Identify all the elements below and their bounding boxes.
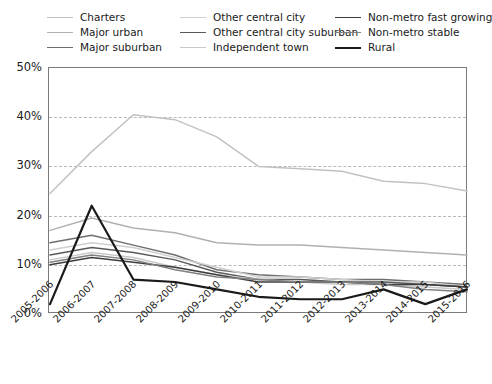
legend-item-label: Major urban xyxy=(80,27,143,38)
y-axis-tick-label: 40% xyxy=(16,109,42,123)
x-axis: 2005-20062006-20072007-20082008-20092009… xyxy=(0,313,476,383)
series-line xyxy=(50,115,467,194)
legend-item-label: Major suburban xyxy=(80,42,162,53)
legend-item-label: Charters xyxy=(80,12,125,23)
legend-item[interactable]: Charters xyxy=(47,10,162,25)
y-axis-tick-label: 20% xyxy=(16,208,42,222)
plot-area xyxy=(48,67,467,313)
legend-item[interactable]: Major suburban xyxy=(47,40,162,55)
legend-swatch-line-icon xyxy=(47,32,73,33)
legend-item-label: Non-metro fast growing xyxy=(368,12,492,23)
legend-swatch-line-icon xyxy=(335,47,361,49)
legend-swatch-line-icon xyxy=(180,17,206,18)
y-axis-tick-label: 50% xyxy=(16,60,42,74)
legend-swatch-line-icon xyxy=(47,17,73,18)
legend-column-2: Other central cityOther central city sub… xyxy=(180,10,358,55)
legend-item[interactable]: Non-metro fast growing xyxy=(335,10,492,25)
legend-item[interactable]: Other central city xyxy=(180,10,358,25)
legend-item-label: Independent town xyxy=(213,42,309,53)
legend-swatch-line-icon xyxy=(335,32,361,33)
legend-item[interactable]: Non-metro stable xyxy=(335,25,492,40)
series-lines xyxy=(49,68,468,314)
y-axis-tick-label: 10% xyxy=(16,257,42,271)
legend-item[interactable]: Other central city suburban xyxy=(180,25,358,40)
legend-swatch-line-icon xyxy=(180,32,206,33)
legend-column-3: Non-metro fast growingNon-metro stableRu… xyxy=(335,10,492,55)
legend-column-1: ChartersMajor urbanMajor suburban xyxy=(47,10,162,55)
y-axis-tick-label: 30% xyxy=(16,158,42,172)
legend-item[interactable]: Rural xyxy=(335,40,492,55)
legend-swatch-line-icon xyxy=(335,17,361,18)
legend-item-label: Rural xyxy=(368,42,395,53)
legend-item-label: Non-metro stable xyxy=(368,27,459,38)
legend-item[interactable]: Major urban xyxy=(47,25,162,40)
legend-swatch-line-icon xyxy=(47,47,73,48)
legend-swatch-line-icon xyxy=(180,47,206,48)
legend-item-label: Other central city xyxy=(213,12,305,23)
chart-legend: ChartersMajor urbanMajor suburban Other … xyxy=(47,10,472,56)
legend-item[interactable]: Independent town xyxy=(180,40,358,55)
